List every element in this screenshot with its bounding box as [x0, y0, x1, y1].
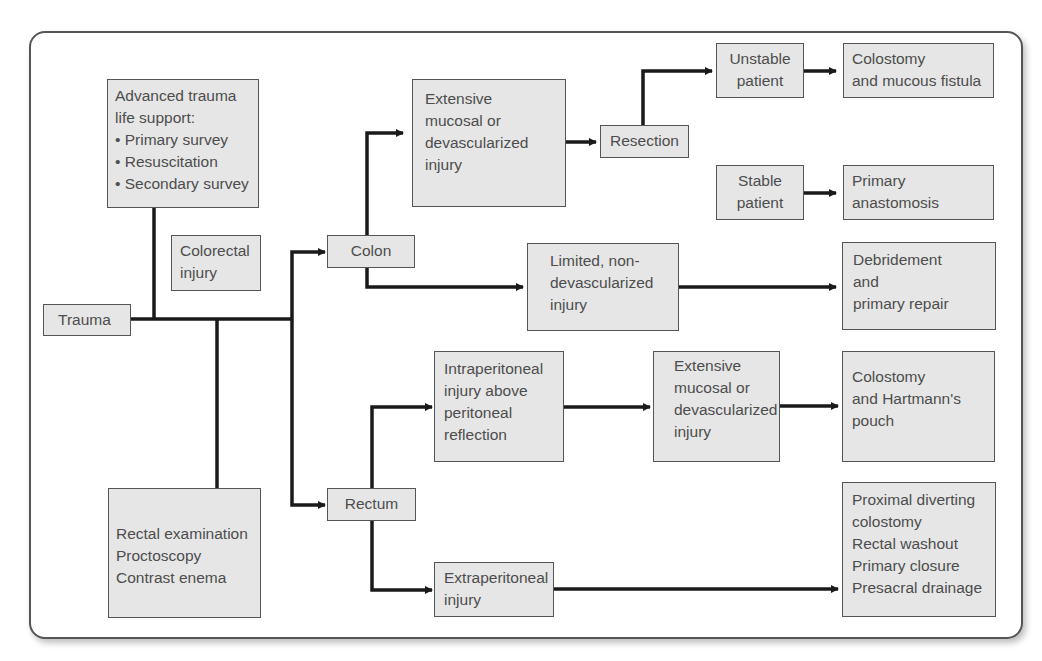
trauma-node: Trauma: [43, 304, 131, 336]
rectal-extensive-injury-node: Extensive mucosal or devascularized inju…: [653, 351, 780, 462]
primary-anastomosis-node: Primary anastomosis: [843, 165, 994, 220]
hartmann-pouch-node: Colostomy and Hartmann's pouch: [842, 351, 995, 462]
extraperitoneal-injury-node: Extraperitoneal injury: [434, 562, 554, 617]
debridement-primary-repair-node: Debridement and primary repair: [842, 242, 996, 330]
colon-node: Colon: [327, 235, 415, 268]
colorectal-injury-label: Colorectal injury: [171, 235, 261, 291]
stable-patient-node: Stable patient: [716, 165, 804, 220]
rectal-exam-node: Rectal examination Proctoscopy Contrast …: [108, 488, 261, 618]
colon-extensive-injury-node: Extensive mucosal or devascularized inju…: [412, 79, 566, 207]
colon-limited-injury-node: Limited, non- devascularized injury: [527, 243, 679, 331]
atls-node: Advanced trauma life support: • Primary …: [107, 79, 259, 208]
proximal-diverting-colostomy-node: Proximal diverting colostomy Rectal wash…: [842, 482, 996, 617]
resection-node: Resection: [600, 125, 689, 158]
intraperitoneal-injury-node: Intraperitoneal injury above peritoneal …: [434, 351, 564, 462]
colostomy-mucous-fistula-node: Colostomy and mucous fistula: [843, 43, 994, 98]
unstable-patient-node: Unstable patient: [716, 43, 804, 98]
rectum-node: Rectum: [327, 488, 416, 521]
